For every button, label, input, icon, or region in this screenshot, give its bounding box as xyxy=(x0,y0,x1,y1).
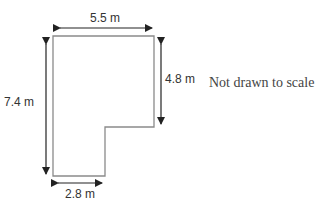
right-height-label: 4.8 m xyxy=(165,73,195,85)
l-shape-outline xyxy=(53,36,154,176)
top-width-label: 5.5 m xyxy=(90,12,120,24)
scale-note: Not drawn to scale xyxy=(209,76,314,90)
left-height-label: 7.4 m xyxy=(4,96,34,108)
floor-plan-diagram xyxy=(0,0,331,208)
bottom-width-label: 2.8 m xyxy=(65,188,95,200)
